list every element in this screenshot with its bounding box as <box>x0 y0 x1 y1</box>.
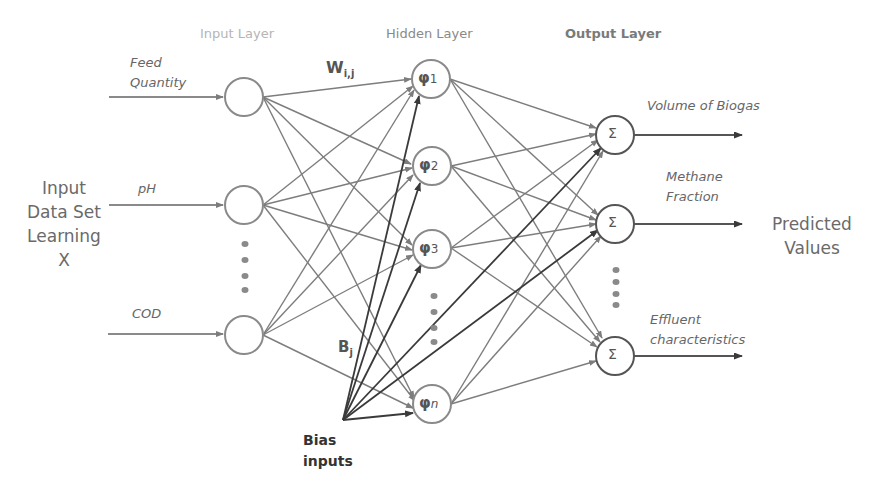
bias-weight-main: B <box>338 338 349 356</box>
hidden-node-label-n: φn <box>419 394 438 412</box>
input-nodes <box>225 78 263 354</box>
input-dataset-label: Input Data Set Learning X <box>24 176 104 272</box>
output-label-line: Effluent <box>650 310 745 330</box>
left-label-line: Data Set <box>24 200 104 224</box>
phi-subscript: 2 <box>431 159 439 173</box>
phi-subscript: 1 <box>430 72 438 86</box>
output-label-volume-of-biogas: Volume of Biogas <box>647 96 760 116</box>
hidden-node-label-1: φ1 <box>418 69 437 87</box>
weights-label-main: W <box>326 58 344 77</box>
input-ellipsis-dots <box>242 241 249 293</box>
hidden-node-label-3: φ3 <box>419 239 438 257</box>
right-label-line: Values <box>762 236 862 260</box>
output-layer-title: Output Layer <box>565 26 661 41</box>
phi-symbol: φ <box>419 156 431 174</box>
input-label-cod: COD <box>132 304 161 324</box>
bias-weight-sub: j <box>349 347 352 358</box>
hidden-ellipsis-dots <box>431 293 438 345</box>
input-arrows <box>108 97 223 334</box>
left-label-line: X <box>24 248 104 272</box>
input-label-line: Feed <box>130 53 186 73</box>
weights-label: Wi,j <box>326 58 354 79</box>
phi-subscript: n <box>431 397 439 411</box>
phi-symbol: φ <box>419 394 431 412</box>
input-node <box>225 186 263 224</box>
input-node <box>225 78 263 116</box>
output-label-methane-fraction: Methane Fraction <box>666 167 723 207</box>
right-label-line: Predicted <box>762 212 862 236</box>
left-label-line: Input <box>24 176 104 200</box>
output-node-symbol-3: Σ <box>608 346 617 362</box>
output-label-effluent-characteristics: Effluent characteristics <box>650 310 745 350</box>
output-ellipsis-dots <box>613 267 620 308</box>
input-layer-title: Input Layer <box>200 26 274 41</box>
bias-weight-label: Bj <box>338 338 353 358</box>
predicted-values-label: Predicted Values <box>762 212 862 260</box>
phi-symbol: φ <box>418 69 430 87</box>
hidden-output-connections <box>450 79 603 404</box>
output-label-line: characteristics <box>650 330 745 350</box>
input-label-line: Quantity <box>130 73 186 93</box>
hidden-node-label-2: φ2 <box>419 156 438 174</box>
output-node-symbol-1: Σ <box>608 125 617 141</box>
input-label-feed-quantity: Feed Quantity <box>130 53 186 93</box>
output-node-symbol-2: Σ <box>608 214 617 230</box>
output-label-line: Fraction <box>666 187 723 207</box>
bias-label-line: inputs <box>303 451 353 472</box>
hidden-layer-title: Hidden Layer <box>386 26 473 41</box>
input-label-ph: pH <box>138 179 156 199</box>
phi-symbol: φ <box>419 239 431 257</box>
output-label-line: Methane <box>666 167 723 187</box>
input-node <box>225 316 263 354</box>
left-label-line: Learning <box>24 224 104 248</box>
weights-label-sub: i,j <box>344 68 355 79</box>
phi-subscript: 3 <box>431 242 439 256</box>
bias-label-line: Bias <box>303 430 353 451</box>
bias-inputs-label: Bias inputs <box>303 430 353 472</box>
input-hidden-connections <box>263 79 415 408</box>
